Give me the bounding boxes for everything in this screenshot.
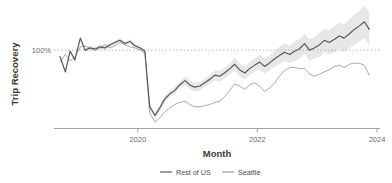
x-axis-title: Month [203,148,232,159]
trip-recovery-line-chart: 2020 2022 2024 Month 100% Trip Recovery … [0,0,392,183]
y-axis-title: Trip Recovery [9,42,20,106]
confidence-band-rest-of-us [60,5,369,118]
y-tick-label-100pct: 100% [32,46,52,55]
legend-label-rest-of-us[interactable]: Rest of US [176,168,211,177]
x-tick-label-2022: 2022 [249,135,266,144]
plot-area [54,5,380,122]
y-axis: 100% Trip Recovery [9,42,51,106]
x-tick-label-2024: 2024 [369,135,386,144]
line-series-seattle [60,42,369,121]
legend-label-seattle[interactable]: Seattle [238,168,260,177]
x-tick-label-2020: 2020 [129,135,146,144]
legend: Rest of US Seattle [160,168,260,177]
chart-container: 2020 2022 2024 Month 100% Trip Recovery … [0,0,392,183]
x-axis: 2020 2022 2024 Month [54,129,385,160]
